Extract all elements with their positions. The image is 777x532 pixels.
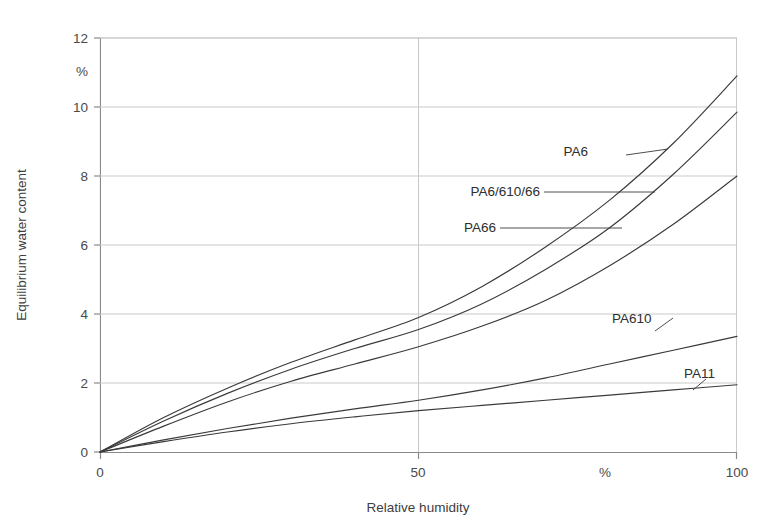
x-axis-title: Relative humidity (367, 500, 470, 515)
series-label-pa610: PA610 (612, 311, 652, 326)
chart-figure: 12 10 8 6 4 2 0 % 0 50 100 % Relative hu… (0, 0, 777, 532)
x-tick-label-100: 100 (726, 465, 749, 480)
x-tick-label-0: 0 (96, 465, 104, 480)
chart-svg: 12 10 8 6 4 2 0 % 0 50 100 % Relative hu… (0, 0, 777, 532)
x-unit-label: % (599, 465, 611, 480)
y-tick-label-0: 0 (80, 445, 88, 460)
series-label-pa6: PA6 (563, 144, 588, 159)
y-tick-label-2: 2 (80, 376, 88, 391)
series-label-pa66: PA66 (464, 220, 496, 235)
y-tick-label-6: 6 (80, 238, 88, 253)
y-unit-label: % (76, 64, 88, 79)
y-tick-label-10: 10 (73, 100, 88, 115)
y-axis-title: Equilibrium water content (14, 169, 29, 321)
series-label-pa11: PA11 (684, 366, 715, 381)
y-tick-label-12: 12 (73, 31, 88, 46)
y-tick-label-4: 4 (80, 307, 88, 322)
x-tick-label-50: 50 (410, 465, 425, 480)
series-label-pa6-610-66: PA6/610/66 (470, 184, 540, 199)
y-tick-label-8: 8 (80, 169, 88, 184)
